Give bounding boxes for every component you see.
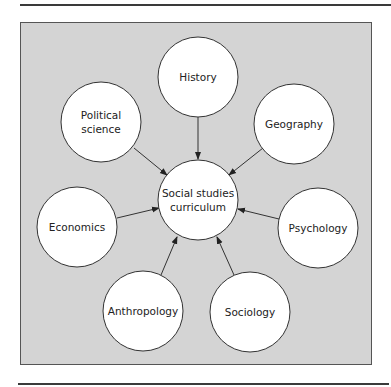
label-text: History [179,71,216,83]
label-text-line1: Political [81,109,121,121]
arrow-economics [117,208,159,218]
label-psychology: Psychology [278,221,358,235]
label-geography: Geography [254,117,334,131]
label-text: Psychology [289,222,348,234]
label-text: Sociology [225,306,275,318]
arrow-psychology [238,209,279,219]
label-text: Geography [265,118,323,130]
label-center: Social studiescurriculum [158,186,238,214]
label-text: Economics [49,221,105,233]
arrow-geography [229,148,263,175]
label-text-line2: curriculum [170,201,226,213]
label-political-science: Politicalscience [61,108,141,136]
arrow-political-science [134,148,167,175]
label-anthropology: Anthropology [103,304,183,318]
arrow-sociology [217,237,234,275]
label-history: History [158,70,238,84]
label-economics: Economics [37,220,117,234]
label-text-line1: Social studies [162,187,234,199]
label-sociology: Sociology [210,305,290,319]
label-text-line2: science [81,123,121,135]
bottom-rule [18,383,389,385]
label-text: Anthropology [108,305,178,317]
arrow-anthropology [161,237,177,275]
